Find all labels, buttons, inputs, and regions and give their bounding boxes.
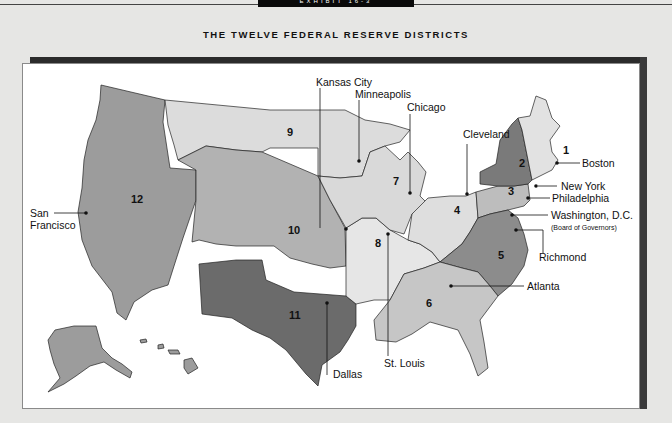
label-atlanta: Atlanta bbox=[527, 281, 560, 292]
district-number-11: 11 bbox=[289, 309, 301, 321]
city-dot-washington[interactable] bbox=[510, 213, 514, 217]
label-philadelphia: Philadelphia bbox=[552, 193, 609, 204]
city-dot-san-francisco[interactable] bbox=[84, 211, 88, 215]
city-dot-minneapolis[interactable] bbox=[357, 159, 361, 163]
hawaii-region[interactable] bbox=[158, 344, 164, 349]
district-number-3: 3 bbox=[508, 185, 514, 197]
city-dot-kansas-city[interactable] bbox=[344, 227, 348, 231]
district-number-12: 12 bbox=[131, 193, 143, 205]
district-number-7: 7 bbox=[393, 175, 399, 187]
label-kansas-city: Kansas City bbox=[316, 77, 372, 88]
alaska-region[interactable] bbox=[48, 326, 132, 392]
city-dot-st-louis[interactable] bbox=[386, 232, 390, 236]
city-dot-boston[interactable] bbox=[555, 161, 559, 165]
city-dot-new-york[interactable] bbox=[534, 184, 538, 188]
district-number-5: 5 bbox=[498, 249, 504, 261]
city-dot-cleveland[interactable] bbox=[465, 192, 469, 196]
label-chicago: Chicago bbox=[407, 102, 446, 113]
label-cleveland: Cleveland bbox=[463, 129, 510, 140]
city-dot-chicago[interactable] bbox=[408, 191, 412, 195]
label-new-york: New York bbox=[561, 181, 605, 192]
label-san-francisco-line1: San bbox=[30, 208, 49, 219]
hawaii-region[interactable] bbox=[168, 350, 180, 354]
label-washington: Washington, D.C. bbox=[551, 210, 633, 221]
district-number-6: 6 bbox=[426, 297, 432, 309]
district-number-8: 8 bbox=[375, 237, 381, 249]
city-dot-philadelphia[interactable] bbox=[526, 196, 530, 200]
district-number-2: 2 bbox=[519, 157, 525, 169]
label-san-francisco-line2: Francisco bbox=[30, 220, 76, 231]
label-st-louis: St. Louis bbox=[384, 358, 425, 369]
label-boston: Boston bbox=[582, 158, 615, 169]
district-number-9: 9 bbox=[287, 126, 293, 138]
label-richmond: Richmond bbox=[539, 252, 586, 263]
label-dallas: Dallas bbox=[333, 369, 362, 380]
district-number-1: 1 bbox=[563, 144, 569, 156]
district-number-4: 4 bbox=[454, 204, 460, 216]
label-minneapolis: Minneapolis bbox=[355, 89, 411, 100]
city-dot-atlanta[interactable] bbox=[449, 284, 453, 288]
city-dot-dallas[interactable] bbox=[325, 301, 329, 305]
district-number-10: 10 bbox=[288, 224, 300, 236]
city-dot-richmond[interactable] bbox=[514, 228, 518, 232]
hawaii-region[interactable] bbox=[140, 339, 147, 343]
hawaii-region[interactable] bbox=[184, 358, 198, 374]
label-washington-sub: (Board of Governors) bbox=[551, 222, 617, 233]
